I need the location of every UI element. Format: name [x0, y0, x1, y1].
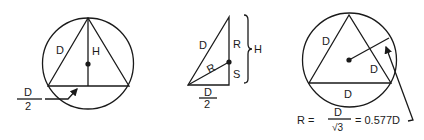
figure-3-circumradius: D D D R = D √3 = 0.577D [297, 13, 413, 133]
hypotenuse-label: D [199, 39, 207, 51]
center-dot [226, 59, 231, 64]
left-side-label: D [322, 35, 330, 47]
right-side-label: D [370, 63, 378, 75]
height-label: H [92, 45, 100, 57]
center-dot [85, 61, 90, 66]
geometry-diagram: D H D 2 D R R S H D 2 D D D R = [0, 0, 424, 140]
height-label: H [254, 43, 262, 55]
upper-segment-label: R [233, 38, 241, 50]
half-base-numerator: D [24, 86, 32, 98]
right-triangle [188, 17, 229, 85]
base-denominator: 2 [204, 98, 210, 110]
formula-rhs: = 0.577D [355, 114, 400, 126]
formula-numerator: D [334, 106, 342, 118]
side-label: D [56, 44, 64, 56]
leader-arrow [45, 89, 77, 99]
figure-1-circumscribed-triangle: D H D 2 [17, 18, 134, 112]
radius-diag-label: R [205, 61, 218, 75]
figure-2-half-triangle: D R R S H D 2 [188, 15, 262, 110]
base-label: D [344, 88, 352, 100]
height-brace [244, 15, 252, 83]
equilateral-triangle [309, 15, 391, 83]
lower-segment-label: S [233, 68, 240, 80]
radius-line [349, 38, 389, 60]
center-dot [346, 57, 351, 62]
base-numerator: D [204, 86, 212, 98]
formula-lhs: R = [297, 114, 314, 126]
formula-denominator: √3 [332, 122, 343, 133]
half-base-denominator: 2 [25, 100, 31, 112]
